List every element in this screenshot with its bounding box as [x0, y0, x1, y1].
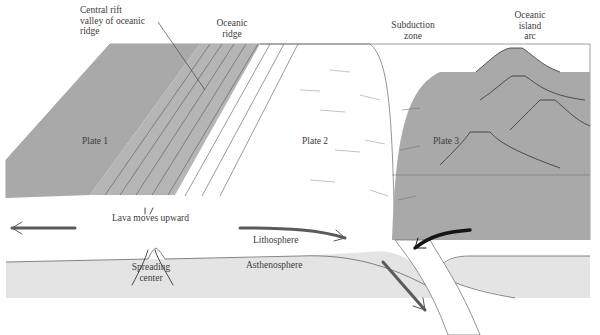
label-lithosphere: Lithosphere	[253, 235, 298, 246]
label-plate2: Plate 2	[302, 136, 328, 147]
label-rift-valley: Central rift valley of oceanic ridge	[80, 5, 145, 37]
label-line: island	[495, 21, 565, 32]
label-line: Oceanic	[202, 18, 262, 29]
label-line: ridge	[202, 29, 262, 40]
asthenosphere-region-right	[439, 256, 590, 298]
label-plate3: Plate 3	[433, 136, 459, 147]
label-line: zone	[378, 31, 448, 42]
diagram-artwork	[0, 0, 600, 335]
label-line: arc	[495, 31, 565, 42]
label-asthenosphere: Asthenosphere	[246, 260, 302, 271]
label-subduction-zone: Subduction zone	[378, 20, 448, 41]
label-line: ridge	[80, 26, 145, 37]
label-line: valley of oceanic	[80, 16, 145, 27]
asthenosphere-region	[6, 251, 448, 298]
label-line: Spreading	[126, 262, 176, 273]
plate-tectonics-diagram: Central rift valley of oceanic ridge Oce…	[0, 0, 600, 335]
label-island-arc: Oceanic island arc	[495, 10, 565, 42]
label-spreading-center: Spreading center	[126, 262, 176, 283]
label-line: Central rift	[80, 5, 145, 16]
label-plate1: Plate 1	[82, 136, 108, 147]
label-oceanic-ridge: Oceanic ridge	[202, 18, 262, 39]
label-lava: Lava moves upward	[112, 213, 189, 224]
label-line: Oceanic	[495, 10, 565, 21]
label-line: Subduction	[378, 20, 448, 31]
label-line: center	[126, 273, 176, 284]
